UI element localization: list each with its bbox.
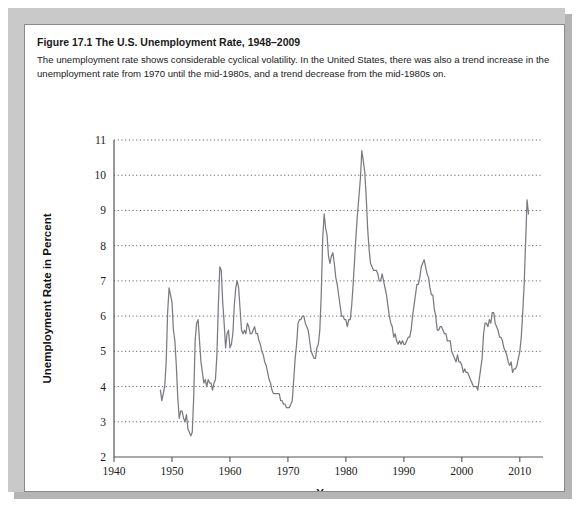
y-tick-label-3: 3 [100,416,106,428]
x-tick-label-1970: 1970 [276,465,299,477]
x-tick-label-1980: 1980 [334,465,357,477]
panel-shadow-bottom [14,492,572,499]
figure-panel: Figure 17.1 The U.S. Unemployment Rate, … [24,24,565,492]
x-tick-label-2000: 2000 [450,465,473,477]
chart-plot-area: 234567891011 194019501960197019801990200… [25,97,564,491]
figure-caption-block: Figure 17.1 The U.S. Unemployment Rate, … [37,35,555,81]
y-tick-label-4: 4 [100,381,106,393]
y-tick-label-9: 9 [100,204,106,216]
y-tick-labels-group: 234567891011 [95,134,107,463]
figure-description: The unemployment rate shows considerable… [37,53,555,81]
figure-outer-frame: Figure 17.1 The U.S. Unemployment Rate, … [8,8,565,492]
x-tick-label-1990: 1990 [392,465,415,477]
unemployment-line-chart: 234567891011 194019501960197019801990200… [25,97,564,491]
x-tick-label-1960: 1960 [218,465,241,477]
x-tick-label-1950: 1950 [160,465,183,477]
panel-shadow-right [565,14,572,498]
y-axis-title: Unemployment Rate in Percent [41,213,53,383]
x-tick-label-2010: 2010 [508,465,531,477]
page-title: The U.S. Unemployment Rate, 1948–2009 [95,36,300,48]
x-tick-label-1940: 1940 [103,465,126,477]
y-tick-label-2: 2 [100,451,106,463]
unemployment-rate-series [160,151,528,436]
figure-title-line: Figure 17.1 The U.S. Unemployment Rate, … [37,35,555,50]
figure-number: Figure 17.1 [37,36,92,48]
x-tick-labels-group: 19401950196019701980199020002010 [103,457,532,477]
y-tick-label-10: 10 [95,169,107,181]
x-axis-title: Year [316,487,341,491]
y-tick-label-11: 11 [95,134,106,146]
y-tick-label-8: 8 [100,240,106,252]
y-tick-label-5: 5 [100,345,106,357]
figure-root: Figure 17.1 The U.S. Unemployment Rate, … [0,0,581,515]
y-tick-label-7: 7 [100,275,106,287]
y-tick-label-6: 6 [100,310,106,322]
